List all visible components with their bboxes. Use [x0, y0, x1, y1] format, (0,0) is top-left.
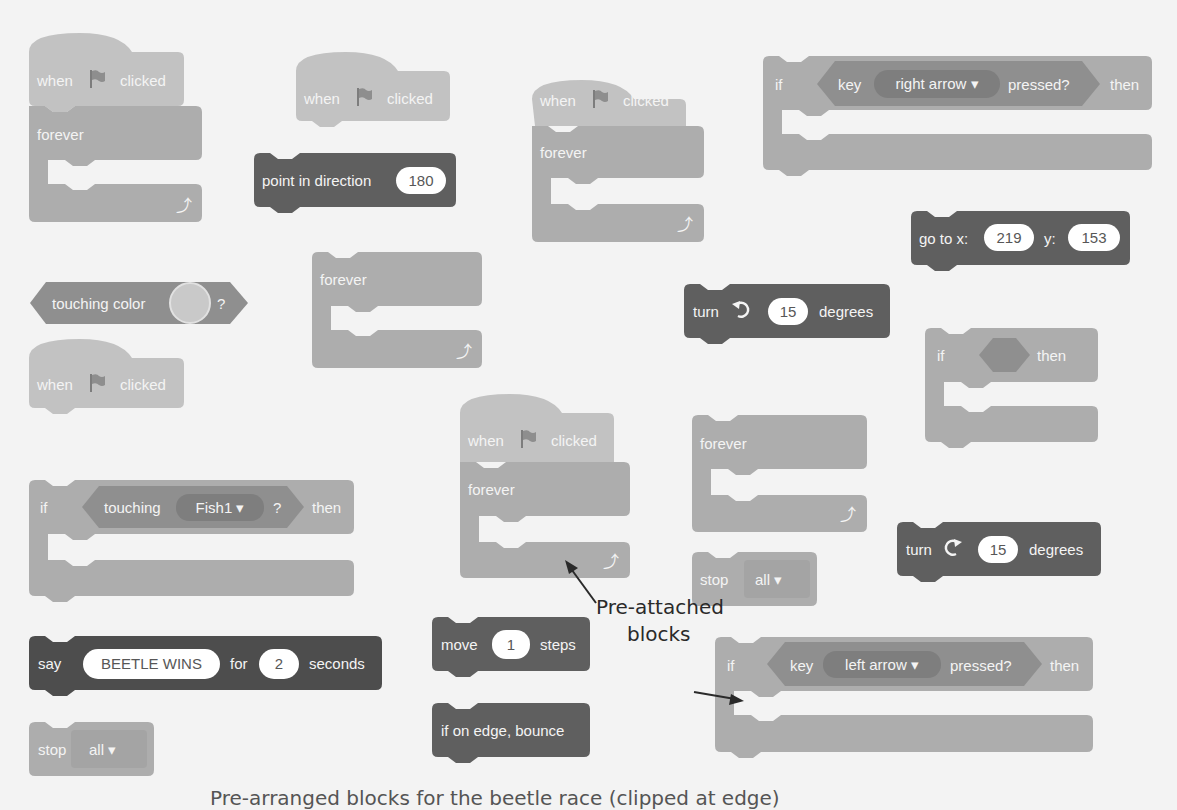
if-on-edge-bounce-block[interactable] [432, 703, 590, 763]
stop-all-block[interactable] [29, 722, 154, 776]
figure-caption-clipped: Pre-arranged blocks for the beetle race … [210, 786, 780, 810]
turn-right-block[interactable] [897, 522, 1101, 582]
annotation-line2: blocks [627, 624, 691, 644]
when-flag-clicked-forever-script[interactable] [29, 33, 204, 223]
go-to-xy-block[interactable] [911, 211, 1130, 271]
if-key-left-arrow-block[interactable] [715, 637, 1093, 758]
say-for-seconds-block[interactable] [29, 636, 382, 696]
touching-color-block[interactable] [30, 282, 248, 324]
when-flag-clicked-block[interactable] [296, 52, 450, 127]
if-then-block[interactable] [925, 328, 1098, 448]
turn-left-block[interactable] [684, 284, 890, 344]
when-flag-clicked-forever-script[interactable] [532, 80, 704, 242]
forever-block[interactable] [312, 252, 482, 368]
when-flag-clicked-forever-script[interactable] [460, 394, 630, 578]
stop-all-block[interactable] [692, 552, 817, 606]
if-touching-block[interactable] [29, 480, 354, 602]
point-in-direction-block[interactable] [254, 153, 456, 213]
when-flag-clicked-block[interactable] [29, 339, 184, 414]
forever-block[interactable] [692, 415, 867, 532]
if-key-right-arrow-block[interactable] [763, 56, 1152, 176]
move-steps-block[interactable] [432, 617, 590, 677]
